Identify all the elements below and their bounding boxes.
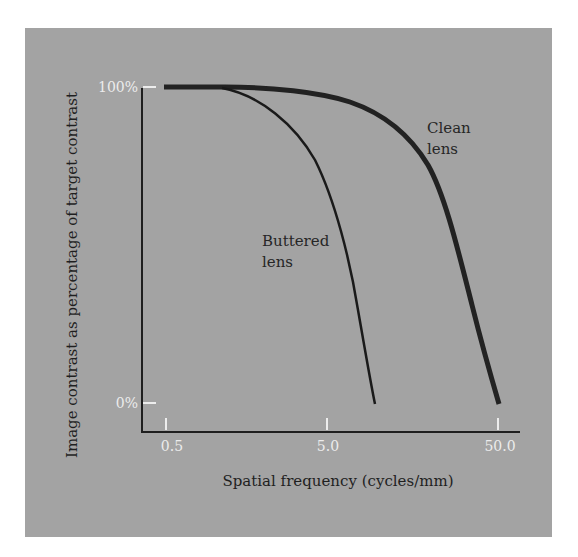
y-tick-label-0: 0% xyxy=(116,395,138,411)
x-tick-label-50.0: 50.0 xyxy=(484,438,515,454)
y-tick-label-100: 100% xyxy=(98,79,138,95)
x-tick-label-0.5: 0.5 xyxy=(161,438,183,454)
mtf-chart: 100% 0% 0.5 5.0 50.0 Spatial frequency (… xyxy=(0,0,578,557)
clean-lens-label-line1: Clean xyxy=(427,119,471,137)
clean-lens-label-line2: lens xyxy=(427,140,458,158)
buttered-lens-label-line1: Buttered xyxy=(262,232,330,250)
x-tick-label-5.0: 5.0 xyxy=(317,438,339,454)
x-axis-title: Spatial frequency (cycles/mm) xyxy=(222,472,453,490)
buttered-lens-label-line2: lens xyxy=(262,253,293,271)
y-axis-title: Image contrast as percentage of target c… xyxy=(63,92,81,458)
